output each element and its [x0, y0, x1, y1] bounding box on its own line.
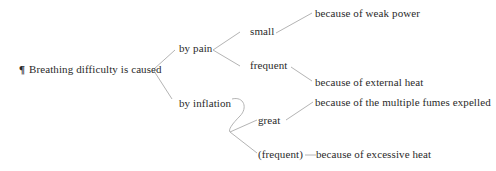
root-node: ¶Breathing difficulty is caused	[19, 63, 162, 76]
connector-small-to-cause	[276, 13, 312, 33]
cause-multiple-fumes: because of the multiple fumes expelled	[315, 96, 491, 109]
node-small: small	[250, 25, 274, 38]
cause-weak-power: because of weak power	[315, 7, 420, 20]
root-label: Breathing difficulty is caused	[29, 63, 162, 75]
node-great: great	[258, 114, 280, 127]
branch-by-pain: by pain	[179, 42, 212, 55]
pilcrow-icon: ¶	[19, 63, 25, 75]
branch-by-inflation: by inflation	[179, 97, 231, 110]
node-paren-frequent: (frequent)	[258, 148, 303, 161]
connector-by-pain-to-small	[213, 32, 240, 50]
connector-frequent-to-cause	[291, 67, 312, 81]
cause-excessive-heat: because of excessive heat	[316, 148, 431, 161]
connector-by-pain-to-frequent	[213, 50, 240, 66]
connector-great-to-cause	[286, 102, 313, 120]
node-frequent: frequent	[250, 59, 287, 72]
connector-by-inflation-to-frequent	[230, 132, 257, 153]
cause-external-heat: because of external heat	[315, 76, 423, 89]
